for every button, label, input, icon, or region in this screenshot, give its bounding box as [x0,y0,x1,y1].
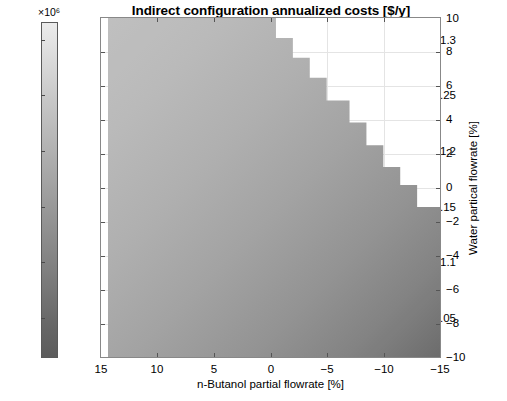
colorbar-tick-mark [41,318,45,319]
y-axis-title: Water partical flowrate [%] [467,121,479,255]
x-tick-label: 0 [251,363,291,375]
colorbar-tick-mark [41,262,45,263]
y-tick-label: 0 [446,181,452,193]
colorbar-tick-mark [41,95,45,96]
colorbar-tick-mark [41,151,45,152]
matlab-figure: Indirect configuration annualized costs … [0,0,507,401]
y-tick-label: 6 [446,79,452,91]
x-tick-label: −10 [364,363,404,375]
y-tick-label: 2 [446,147,452,159]
colorbar-exponent-label: ×10⁶ [38,6,60,18]
colorbar-tick-mark [41,207,45,208]
x-tick-label: −5 [307,363,347,375]
y-tick-label: 4 [446,113,452,125]
colorbar-gradient [41,22,58,358]
heatmap-surface [101,18,440,357]
y-tick-label: −10 [446,351,466,363]
x-tick-label: 5 [194,363,234,375]
x-tick-label: 15 [81,363,121,375]
chart-title: Indirect configuration annualized costs … [100,3,442,18]
colorbar [41,22,58,358]
plot-axes [100,17,441,358]
x-tick-label: 10 [137,363,177,375]
y-tick-label: −8 [446,317,459,329]
x-tick-label: −15 [420,363,460,375]
y-tick-label: 10 [446,12,459,24]
colorbar-tick-mark [41,40,45,41]
y-tick-label: −6 [446,283,459,295]
y-tick-label: 8 [446,45,452,57]
x-axis-title: n-Butanol partial flowrate [%] [100,378,441,390]
y-tick-label: −4 [446,249,459,261]
y-tick-label: −2 [446,215,459,227]
